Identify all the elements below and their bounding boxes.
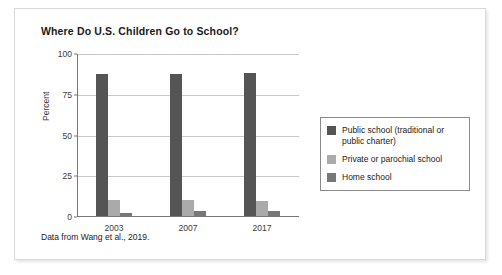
chart-figure-panel: Where Do U.S. Children Go to School? Per… — [14, 8, 486, 260]
legend-item: Home school — [327, 172, 462, 183]
chart-legend: Public school (traditional or public cha… — [320, 117, 470, 191]
legend-label: Home school — [342, 172, 392, 183]
bar — [256, 201, 268, 216]
bar-group: 2007 — [151, 53, 225, 216]
bar — [170, 74, 182, 216]
x-axis-tick-label: 2017 — [225, 223, 299, 233]
legend-item: Public school (traditional or public cha… — [327, 125, 462, 147]
y-axis-tick-label: 0 — [67, 212, 72, 222]
bar — [182, 200, 194, 216]
y-axis-tick-label: 25 — [63, 171, 72, 181]
bar — [96, 74, 108, 216]
chart-title: Where Do U.S. Children Go to School? — [41, 25, 239, 37]
legend-swatch — [327, 155, 336, 164]
bar — [268, 211, 280, 216]
legend-swatch — [327, 173, 336, 182]
y-axis-tick-label: 75 — [63, 90, 72, 100]
legend-label: Private or parochial school — [342, 154, 442, 165]
y-axis-title: Percent — [41, 92, 51, 121]
bar — [244, 73, 256, 216]
bar-group: 2017 — [225, 53, 299, 216]
bar — [108, 200, 120, 216]
y-axis-tick-label: 50 — [63, 131, 72, 141]
legend-swatch — [327, 126, 336, 135]
x-axis-tick-label: 2007 — [151, 223, 225, 233]
plot-area: 0255075100 200320072017 — [77, 54, 299, 217]
bar — [194, 211, 206, 216]
bar-group: 2003 — [77, 53, 151, 216]
legend-item: Private or parochial school — [327, 154, 462, 165]
bar — [120, 213, 132, 216]
chart-caption: Data from Wang et al., 2019. — [41, 232, 149, 242]
x-axis-line — [77, 216, 299, 217]
legend-label: Public school (traditional or public cha… — [342, 125, 462, 147]
y-axis-tick-label: 100 — [58, 49, 72, 59]
